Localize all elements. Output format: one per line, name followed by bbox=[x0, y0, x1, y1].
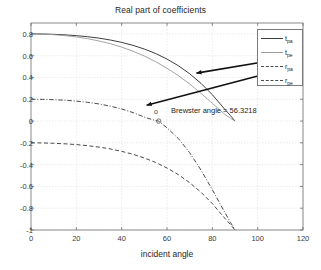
y-tick--0_2: -0.2 bbox=[20, 138, 33, 147]
brewster-annotation-text: Brewster angle = 56.3218 bbox=[171, 106, 257, 115]
x-tick-80: 80 bbox=[208, 234, 216, 243]
y-tick-0_2: 0.2 bbox=[23, 95, 33, 104]
y-tick--0_8: -0.8 bbox=[20, 204, 33, 213]
y-tick-0_6: 0.6 bbox=[23, 51, 33, 60]
legend-label-r-pa: rpa bbox=[285, 63, 293, 70]
brewster-marker-label: o bbox=[154, 108, 158, 115]
x-tick-0: 0 bbox=[29, 234, 33, 243]
legend-swatch-t-pe bbox=[261, 47, 283, 57]
x-tick-100: 100 bbox=[251, 234, 264, 243]
legend-label-r-pe: rpe bbox=[285, 77, 293, 84]
y-tick--0_6: -0.6 bbox=[20, 182, 33, 191]
y-tick--0_4: -0.4 bbox=[20, 160, 33, 169]
legend-label-t-pa: tpa bbox=[285, 35, 293, 42]
legend-swatch-t-pa bbox=[261, 33, 283, 43]
legend[interactable]: tpa tpe rpa rpe bbox=[257, 29, 303, 86]
arrow-r-pa bbox=[147, 74, 265, 105]
figure-canvas: Real part of coefficients incident angle… bbox=[0, 0, 321, 270]
legend-label-t-pe: tpe bbox=[285, 49, 293, 56]
y-tick-0_4: 0.4 bbox=[23, 73, 33, 82]
legend-item-r-pe[interactable]: rpe bbox=[258, 73, 304, 87]
x-tick-60: 60 bbox=[163, 234, 171, 243]
y-tick--1: -1 bbox=[26, 226, 33, 235]
legend-item-t-pa[interactable]: tpa bbox=[258, 31, 304, 45]
x-tick-20: 20 bbox=[72, 234, 80, 243]
x-tick-120: 120 bbox=[297, 234, 310, 243]
x-tick-40: 40 bbox=[117, 234, 125, 243]
legend-item-t-pe[interactable]: tpe bbox=[258, 45, 304, 59]
legend-item-r-pa[interactable]: rpa bbox=[258, 59, 304, 73]
arrow-t-pe bbox=[196, 62, 264, 73]
y-tick-0_8: 0.8 bbox=[23, 29, 33, 38]
legend-swatch-r-pe bbox=[261, 75, 283, 85]
y-tick-0: 0 bbox=[29, 117, 33, 126]
x-axis-label: incident angle bbox=[31, 249, 303, 259]
legend-swatch-r-pa bbox=[261, 61, 283, 71]
